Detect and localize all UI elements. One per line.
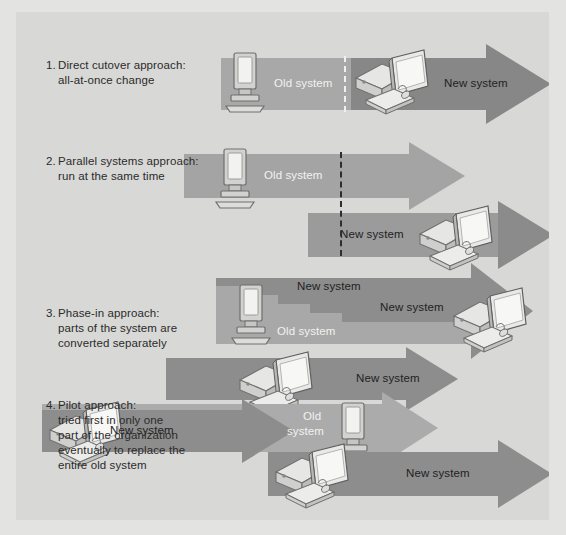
approach-3-detail-1: parts of the system are (58, 321, 177, 337)
row4-new-top-label: New system (356, 372, 420, 384)
row2-old-label: Old system (264, 169, 323, 181)
row2-divider (340, 152, 342, 256)
approach-2-detail: run at the same time (58, 169, 165, 185)
approach-1-detail: all-at-once change (58, 73, 154, 89)
row1-old-label: Old system (274, 77, 333, 89)
approach-3-number: 3. (46, 306, 56, 322)
new-desktop-icon (272, 442, 358, 512)
approach-4-number: 4. (46, 398, 56, 414)
row1-divider (344, 56, 346, 112)
row4-bottom-arrowhead (498, 440, 549, 508)
row4-new-bottom-label: New system (406, 467, 470, 479)
row2-old-arrowhead (409, 142, 465, 210)
approach-4-detail-1: tried first in only one (58, 413, 163, 429)
approach-2-number: 2. (46, 154, 56, 170)
row3-old-label: Old system (277, 325, 336, 337)
new-desktop-icon (450, 286, 536, 356)
approach-1-number: 1. (46, 58, 56, 74)
row1-new-label: New system (444, 77, 508, 89)
row3-new-top-label: New system (297, 280, 361, 292)
row4-old-label-line2: system (287, 425, 324, 437)
row4-old-label-line1: Old (303, 410, 321, 422)
diagram-panel: Old system New system 1. Direct cutover … (16, 12, 549, 520)
approach-2-title: Parallel systems approach: (58, 154, 199, 170)
row3-new-inner-label: New system (380, 301, 444, 313)
row2-new-arrowhead (498, 201, 549, 269)
new-desktop-icon (352, 48, 438, 118)
old-terminal-icon (222, 52, 268, 114)
approach-4-title: Pilot approach: (58, 398, 136, 414)
row2-new-label: New system (340, 228, 404, 240)
approach-1-title: Direct cutover approach: (58, 58, 186, 74)
old-terminal-icon (228, 284, 274, 346)
approach-3-detail-2: converted separately (58, 336, 167, 352)
approach-4-detail-2: part of the organization (58, 428, 178, 444)
approach-3-title: Phase-in approach: (58, 306, 160, 322)
old-terminal-icon (212, 148, 258, 210)
approach-4-detail-3: eventually to replace the (58, 443, 185, 459)
approach-4-detail-4: entire old system (58, 458, 147, 474)
